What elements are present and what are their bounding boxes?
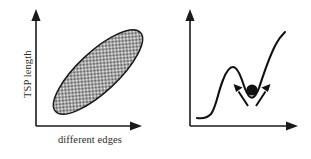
- escape-arrow-left-head-icon: [234, 84, 243, 92]
- x-axis-label: different edges: [58, 134, 122, 145]
- right-panel-graphic: [155, 0, 311, 159]
- double-well-curve: [197, 32, 285, 118]
- escape-arrow-right-head-icon: [261, 84, 270, 92]
- x-axis-arrowhead-icon: [286, 121, 298, 130]
- x-axis-arrowhead-icon: [130, 121, 142, 130]
- hatched-ellipse: [42, 18, 154, 126]
- y-axis-arrowhead-icon: [31, 9, 40, 21]
- solution-ball: [246, 84, 257, 95]
- figure-container: TSP length different edges TSP length di…: [0, 0, 311, 159]
- scatter-correlation-panel: TSP length different edges: [0, 0, 155, 159]
- y-axis-label: TSP length: [22, 50, 33, 98]
- y-axis-arrowhead-icon: [185, 9, 194, 21]
- energy-landscape-panel: TSP length different edges: [155, 0, 311, 159]
